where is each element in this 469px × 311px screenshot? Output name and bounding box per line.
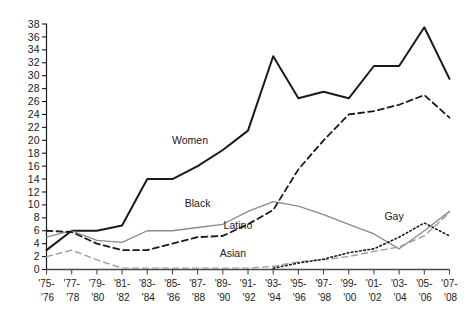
x-axis-tick-label-top: '95- [290,278,306,289]
y-axis-tick-label: 30 [28,69,40,81]
y-axis-tick-label: 26 [28,95,40,107]
y-axis-tick-label: 14 [28,173,40,185]
y-axis-tick-label: 2 [34,250,40,262]
y-axis-tick-label: 32 [28,56,40,68]
x-axis-tick-label-bottom: '00 [343,292,356,303]
x-axis-tick-label-bottom: '94 [268,292,281,303]
x-axis-tick-label-bottom: '06 [419,292,432,303]
data-series-group [47,27,450,268]
series-label-black: Black [185,197,211,209]
x-axis-tick-label-top: '85- [164,278,180,289]
chart-plot-area: 02468101214161820222426283032343638 '75-… [0,0,469,311]
x-axis-tick-label-bottom: '80 [91,292,104,303]
x-axis-tick-label-bottom: '04 [394,292,407,303]
x-axis: '75-'76'77-'78'79-'80'81-'82'83-'84'85-'… [38,270,457,303]
x-axis-tick-label-bottom: '98 [318,292,331,303]
x-axis-tick-label-top: '07- [441,278,457,289]
y-axis-tick-label: 16 [28,160,40,172]
series-label-gay: Gay [384,210,404,222]
x-axis-tick-label-top: '75- [38,278,54,289]
x-axis-tick-label-top: '01- [366,278,382,289]
y-axis-tick-label: 34 [28,43,40,55]
y-axis-tick-label: 18 [28,147,40,159]
series-label-latino: Latino [224,219,253,231]
x-axis-tick-label-top: '77- [64,278,80,289]
y-axis: 02468101214161820222426283032343638 [28,18,47,276]
y-axis-tick-label: 0 [34,263,40,275]
x-axis-tick-label-bottom: '76 [41,292,54,303]
x-axis-tick-label-bottom: '92 [242,292,255,303]
y-axis-tick-label: 6 [34,224,40,236]
y-axis-tick-label: 20 [28,134,40,146]
series-labels-group: WomenBlackLatinoAsianGay [172,134,404,260]
line-chart: 02468101214161820222426283032343638 '75-… [0,0,469,311]
x-axis-tick-label-bottom: '86 [167,292,180,303]
x-axis-tick-label-bottom: '88 [192,292,205,303]
x-axis-tick-label-top: '99- [341,278,357,289]
x-axis-tick-label-top: '79- [89,278,105,289]
x-axis-tick-label-bottom: '90 [217,292,230,303]
x-axis-tick-label-bottom: '02 [368,292,381,303]
series-label-asian: Asian [220,247,246,259]
y-axis-tick-label: 4 [34,237,40,249]
x-axis-tick-label-bottom: '78 [66,292,79,303]
y-axis-tick-label: 36 [28,31,40,43]
y-axis-tick-label: 38 [28,18,40,30]
x-axis-tick-label-bottom: '82 [117,292,130,303]
x-axis-tick-label-bottom: '08 [444,292,457,303]
x-axis-tick-label-bottom: '96 [293,292,306,303]
y-axis-tick-label: 22 [28,121,40,133]
x-axis-tick-label-top: '87- [189,278,205,289]
x-axis-tick-label-top: '83- [139,278,155,289]
x-axis-tick-label-top: '93- [265,278,281,289]
x-axis-tick-label-top: '81- [114,278,130,289]
x-axis-tick-label-top: '97- [315,278,331,289]
y-axis-tick-label: 12 [28,186,40,198]
y-axis-tick-label: 8 [34,211,40,223]
x-axis-tick-label-top: '89- [215,278,231,289]
y-axis-tick-label: 24 [28,108,40,120]
x-axis-tick-label-top: '05- [416,278,432,289]
y-axis-tick-label: 10 [28,198,40,210]
x-axis-tick-label-top: '91- [240,278,256,289]
series-label-women: Women [172,134,208,146]
x-axis-tick-label-top: '03- [391,278,407,289]
x-axis-tick-label-bottom: '84 [142,292,155,303]
y-axis-tick-label: 28 [28,82,40,94]
